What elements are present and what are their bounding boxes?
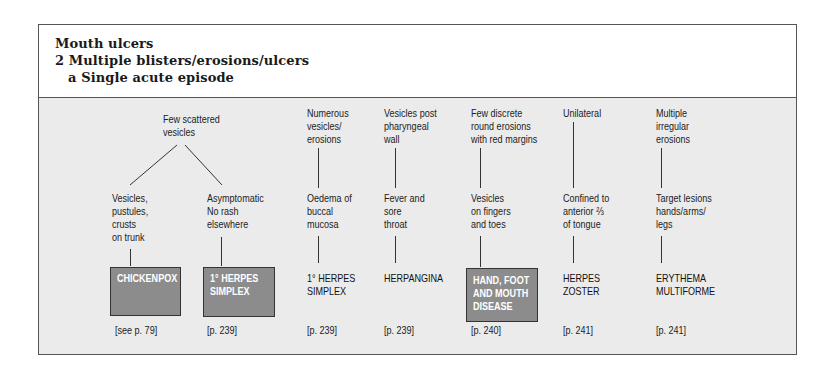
diagnosis-box-chickenpox: CHICKENPOX [110, 267, 181, 316]
connector-line [318, 148, 319, 188]
finding-vesicles-post-pharyngeal: Vesicles post pharyngeal wall [384, 107, 437, 146]
finding-asymptomatic-no-rash: Asymptomatic No rash elsewhere [207, 192, 264, 231]
finding-numerous-vesicles: Numerous vesicles/ erosions [307, 107, 349, 146]
diagnosis-herpangina: HERPANGINA [384, 272, 443, 285]
finding-oedema-buccal-mucosa: Oedema of buccal mucosa [307, 192, 352, 231]
finding-vesicles-fingers-toes: Vesicles on fingers and toes [471, 192, 511, 231]
finding-unilateral: Unilateral [563, 107, 601, 120]
flowchart-panel: Few scattered vesicles Vesicles, pustule… [39, 98, 796, 354]
connector-line [661, 148, 662, 188]
finding-target-lesions: Target lesions hands/arms/ legs [656, 192, 712, 231]
diagnosis-erythema-multiforme: ERYTHEMA MULTIFORME [656, 272, 715, 298]
connector-line [221, 237, 222, 266]
finding-vesicles-pustules-crusts: Vesicles, pustules, crusts on trunk [112, 192, 148, 244]
connector-line [395, 236, 396, 263]
finding-fever-sore-throat: Fever and sore throat [384, 192, 425, 231]
page-ref-herpes-simplex-2: [p. 239] [307, 324, 337, 337]
connector-line [573, 122, 574, 188]
diagram-section: a Single acute episode [68, 70, 234, 85]
diagnosis-box-herpes-simplex: 1° HERPES SIMPLEX [203, 267, 275, 317]
diagram-title: Mouth ulcers [55, 36, 153, 51]
connector-line [480, 148, 481, 188]
diagnosis-hand-foot-mouth: HAND, FOOT AND MOUTH DISEASE [473, 274, 529, 313]
diagnosis-box-hand-foot-mouth: HAND, FOOT AND MOUTH DISEASE [466, 268, 538, 322]
finding-few-discrete-round-erosions: Few discrete round erosions with red mar… [471, 107, 537, 146]
connector-line [661, 236, 662, 263]
page-ref-herpes-simplex: [p. 239] [207, 324, 237, 337]
connector-line [130, 249, 131, 266]
page-ref-herpes-zoster: [p. 241] [563, 324, 593, 337]
diagram-header: Mouth ulcers 2 Multiple blisters/erosion… [39, 25, 796, 98]
page-ref-herpangina: [p. 239] [384, 324, 414, 337]
finding-anterior-two-thirds-tongue: Confined to anterior ⅔ of tongue [563, 192, 609, 231]
page-ref-chickenpox: [see p. 79] [115, 324, 157, 337]
connector-line [573, 236, 574, 263]
diagram-frame: Mouth ulcers 2 Multiple blisters/erosion… [38, 24, 797, 355]
finding-multiple-irregular-erosions: Multiple irregular erosions [656, 107, 690, 146]
connector-line [318, 236, 319, 263]
connector-line [395, 148, 396, 188]
diagnosis-chickenpox: CHICKENPOX [117, 272, 177, 285]
connector-line [480, 236, 481, 267]
page-ref-erythema-multiforme: [p. 241] [656, 324, 686, 337]
diagnosis-herpes-simplex: 1° HERPES SIMPLEX [210, 272, 258, 298]
diagnosis-herpes-simplex-2: 1° HERPES SIMPLEX [307, 272, 355, 298]
page-ref-hand-foot-mouth: [p. 240] [471, 324, 501, 337]
diagnosis-herpes-zoster: HERPES ZOSTER [563, 272, 600, 298]
diagram-subtitle: 2 Multiple blisters/erosions/ulcers [55, 53, 309, 68]
finding-few-scattered-vesicles: Few scattered vesicles [163, 113, 220, 139]
